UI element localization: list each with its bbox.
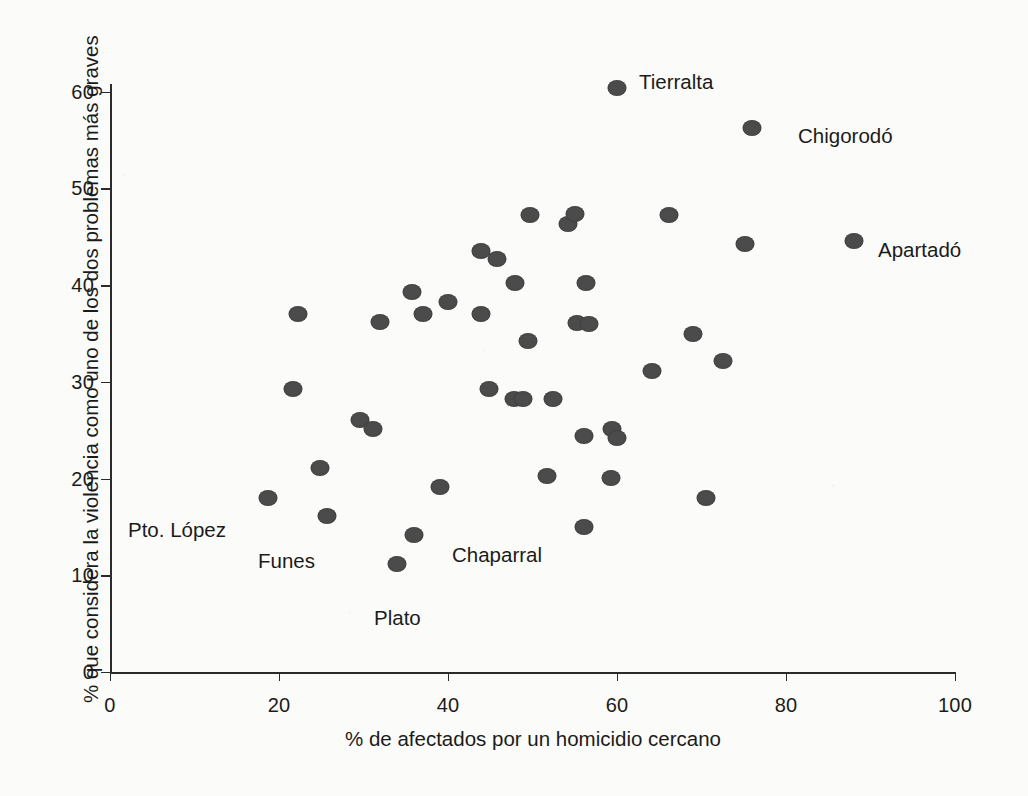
point-label: Apartadó (878, 238, 961, 262)
point-label: Tierralta (639, 70, 713, 94)
data-point (488, 251, 507, 267)
data-point (580, 316, 599, 332)
y-axis-title: % que considera la violencia como uno de… (79, 63, 103, 703)
scatter-plot-area (0, 0, 1028, 796)
data-point (736, 236, 755, 252)
data-point (405, 527, 424, 543)
data-point (602, 470, 621, 486)
data-point (430, 479, 449, 495)
point-label: Funes (258, 549, 315, 573)
data-point (388, 556, 407, 572)
data-point (642, 363, 661, 379)
data-point (505, 275, 524, 291)
data-point (414, 306, 433, 322)
data-point (743, 120, 762, 136)
data-point (514, 391, 533, 407)
data-point (371, 314, 390, 330)
data-point (310, 460, 329, 476)
data-point (283, 381, 302, 397)
data-point (713, 353, 732, 369)
data-point (844, 233, 863, 249)
data-point (696, 490, 715, 506)
chart-canvas: 020406080100 0102030405060 TierraltaChig… (0, 0, 1028, 796)
data-point (439, 294, 458, 310)
data-point (471, 306, 490, 322)
x-axis-title: % de afectados por un homicidio cercano (345, 727, 721, 751)
data-point (318, 508, 337, 524)
data-point (684, 326, 703, 342)
data-point (565, 206, 584, 222)
data-point (259, 490, 278, 506)
data-point (575, 428, 594, 444)
data-point (543, 391, 562, 407)
point-label: Plato (374, 606, 421, 630)
point-label: Chaparral (452, 543, 542, 567)
data-point (608, 430, 627, 446)
data-point (402, 284, 421, 300)
data-point (608, 80, 627, 96)
point-label: Chigorodó (798, 124, 893, 148)
data-point (289, 306, 308, 322)
data-point (519, 333, 538, 349)
data-point (479, 381, 498, 397)
data-point (659, 207, 678, 223)
data-point (537, 468, 556, 484)
data-point (520, 207, 539, 223)
data-point (363, 421, 382, 437)
point-label: Pto. López (128, 518, 226, 542)
data-point (576, 275, 595, 291)
data-point (575, 519, 594, 535)
